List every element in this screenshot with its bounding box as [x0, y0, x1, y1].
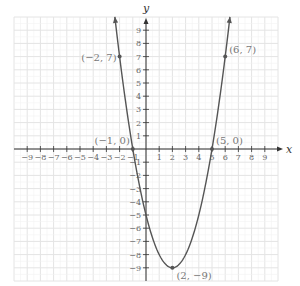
y-tick-label: −6 [129, 224, 141, 233]
y-tick-label: 1 [136, 132, 141, 141]
x-tick-label: 3 [183, 153, 188, 162]
x-tick-label: −5 [74, 153, 86, 162]
y-tick-label: −7 [129, 237, 141, 246]
x-axis-arrow-icon [277, 147, 283, 152]
point-label: (5, 0) [216, 135, 243, 146]
data-point [131, 147, 135, 151]
x-tick-label: 4 [196, 153, 201, 162]
point-label: (−1, 0) [95, 135, 130, 146]
y-tick-label: 7 [136, 53, 141, 62]
x-tick-label: −4 [87, 153, 99, 162]
x-axis-label: x [286, 143, 293, 156]
x-tick-label: 6 [223, 153, 228, 162]
x-tick-label: −3 [101, 153, 113, 162]
x-tick-label: 2 [170, 153, 175, 162]
y-tick-label: −5 [129, 211, 141, 220]
y-tick-label: 5 [136, 79, 141, 88]
y-tick-label: 3 [136, 105, 141, 114]
y-tick-label: 4 [136, 92, 141, 101]
y-axis-arrow-icon [144, 18, 149, 24]
y-tick-label: −8 [129, 251, 141, 260]
data-point [118, 55, 122, 59]
point-label: (−2, 7) [81, 52, 116, 63]
x-tick-label: 8 [249, 153, 254, 162]
y-tick-label: −9 [129, 264, 141, 273]
y-axis-label: y [142, 2, 150, 15]
x-tick-label: 1 [157, 153, 162, 162]
x-tick-label: −8 [35, 153, 47, 162]
x-tick-label: 7 [236, 153, 241, 162]
x-tick-label: −2 [114, 153, 126, 162]
data-point [223, 55, 227, 59]
x-tick-label: −9 [21, 153, 33, 162]
y-tick-label: 6 [136, 66, 141, 75]
y-tick-label: −4 [129, 198, 141, 207]
data-point [210, 147, 214, 151]
x-tick-label: −7 [48, 153, 60, 162]
y-tick-label: 2 [136, 119, 141, 128]
data-point [170, 266, 174, 270]
point-label: (2, −9) [176, 270, 211, 281]
x-tick-label: 9 [262, 153, 267, 162]
y-tick-label: 8 [136, 39, 141, 48]
parabola-graph: −9−8−7−6−5−4−3−2−1123456789−9−8−7−6−5−4−… [0, 0, 300, 286]
point-label: (6, 7) [229, 44, 256, 55]
y-tick-label: −2 [129, 171, 141, 180]
y-tick-label: 9 [136, 26, 141, 35]
x-tick-label: −6 [61, 153, 73, 162]
